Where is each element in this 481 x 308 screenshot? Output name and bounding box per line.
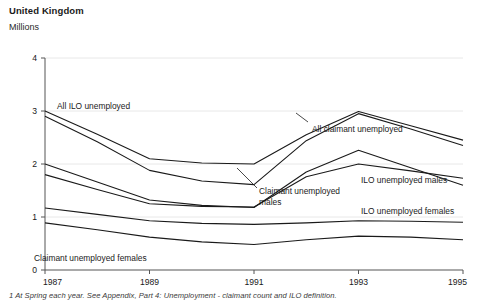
chart-footnote: 1 At Spring each year. See Appendix, Par… bbox=[9, 291, 337, 300]
y-axis-tick-label: 0 bbox=[32, 265, 37, 275]
x-axis-tick-label: 1991 bbox=[244, 277, 263, 287]
annotation-leader-line bbox=[237, 168, 257, 188]
series-label-claimant-unemployed-females: Claimant unemployed females bbox=[34, 253, 147, 264]
series-label-ilo-unemployed-males: ILO unemployed males bbox=[361, 175, 447, 186]
series-line bbox=[45, 223, 463, 245]
y-axis-tick-label: 2 bbox=[32, 159, 37, 169]
series-label-claimant-unemployed-males-1: Claimant unemployed bbox=[259, 186, 340, 197]
x-axis-tick-label: 1987 bbox=[43, 277, 62, 287]
annotation-leader-line bbox=[296, 113, 308, 122]
series-label-claimant-unemployed-males-2: males bbox=[259, 197, 281, 208]
series-label-all-ilo-unemployed: All ILO unemployed bbox=[57, 101, 130, 112]
series-label-ilo-unemployed-females: ILO unemployed females bbox=[361, 206, 454, 217]
series-line bbox=[45, 111, 463, 164]
y-axis-tick-label: 3 bbox=[32, 106, 37, 116]
chart-figure: United Kingdom Millions 0123419871989199… bbox=[0, 0, 481, 308]
x-axis-tick-label: 1989 bbox=[140, 277, 159, 287]
y-axis-tick-label: 4 bbox=[32, 53, 37, 63]
y-axis-tick-label: 1 bbox=[32, 212, 37, 222]
x-axis-tick-label: 1995 bbox=[448, 277, 467, 287]
x-axis-tick-label: 1993 bbox=[349, 277, 368, 287]
series-label-all-claimant-unemployed: All claimant unemployed bbox=[312, 124, 403, 135]
